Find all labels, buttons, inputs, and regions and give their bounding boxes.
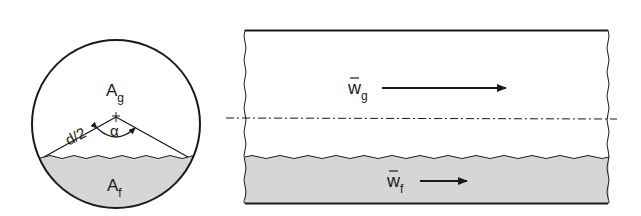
pipe-longitudinal-section: wg wf	[226, 30, 617, 204]
radius-line-right	[116, 117, 188, 157]
angle-label: α	[110, 122, 119, 139]
gas-velocity-label: wg	[347, 78, 368, 103]
pipe-centerline	[226, 118, 617, 119]
gas-area-label: Ag	[106, 81, 124, 105]
stratified-flow-diagram: Ag Af d/2 α wg wf	[0, 0, 641, 216]
pipe-cross-section: Ag Af d/2 α	[20, 40, 212, 216]
liquid-layer	[245, 156, 609, 204]
